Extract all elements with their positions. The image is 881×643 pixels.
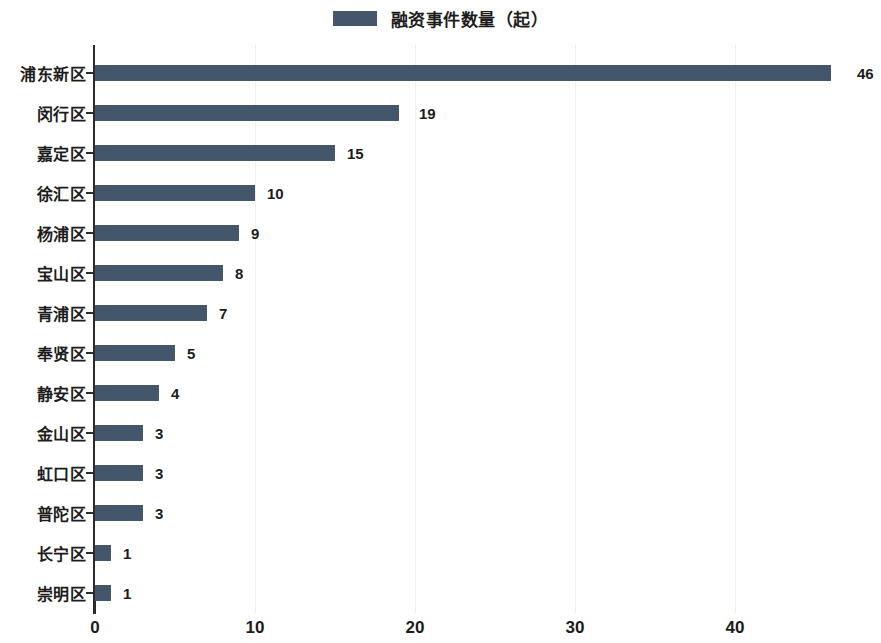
bar[interactable]: [95, 185, 255, 201]
category-label: 金山区: [37, 421, 87, 445]
bar[interactable]: [95, 265, 223, 281]
category-label: 嘉定区: [37, 141, 87, 165]
table-row: 嘉定区 15: [0, 133, 881, 173]
y-axis-tick: [86, 192, 94, 194]
bar[interactable]: [95, 505, 143, 521]
y-axis-tick: [86, 312, 94, 314]
bar-value-label: 1: [123, 585, 131, 602]
table-row: 徐汇区 10: [0, 173, 881, 213]
y-axis-tick: [86, 592, 94, 594]
bar-value-label: 1: [123, 545, 131, 562]
category-label: 虹口区: [37, 461, 87, 485]
bar[interactable]: [95, 145, 335, 161]
category-label: 宝山区: [37, 261, 87, 285]
y-axis-tick: [86, 432, 94, 434]
bar-value-label: 3: [155, 505, 163, 522]
x-axis-tick-label: 30: [566, 618, 585, 638]
table-row: 普陀区 3: [0, 493, 881, 533]
table-row: 奉贤区 5: [0, 333, 881, 373]
y-axis-tick: [86, 152, 94, 154]
category-label: 长宁区: [37, 541, 87, 565]
bar[interactable]: [95, 545, 111, 561]
table-row: 虹口区 3: [0, 453, 881, 493]
category-label: 崇明区: [37, 581, 87, 605]
y-axis-tick: [86, 392, 94, 394]
table-row: 长宁区 1: [0, 533, 881, 573]
bar[interactable]: [95, 345, 175, 361]
bar-value-label: 3: [155, 465, 163, 482]
table-row: 崇明区 1: [0, 573, 881, 613]
bar-chart: 融资事件数量（起） 浦东新区 46 闵行区 19 嘉定区 15: [0, 0, 881, 643]
y-axis-tick: [86, 512, 94, 514]
bar-value-label: 19: [419, 105, 436, 122]
x-axis-tick-label: 40: [726, 618, 745, 638]
table-row: 金山区 3: [0, 413, 881, 453]
bar[interactable]: [95, 225, 239, 241]
bar-value-label: 8: [235, 265, 243, 282]
bar-value-label: 4: [171, 385, 179, 402]
y-axis-tick: [86, 552, 94, 554]
bar[interactable]: [95, 385, 159, 401]
bar-value-label: 7: [219, 305, 227, 322]
table-row: 青浦区 7: [0, 293, 881, 333]
bar[interactable]: [95, 305, 207, 321]
x-axis-tick-label: 20: [406, 618, 425, 638]
plot-area: 浦东新区 46 闵行区 19 嘉定区 15 徐汇区 10 杨浦区: [0, 0, 881, 643]
category-label: 浦东新区: [20, 61, 86, 85]
x-axis-tick-label: 10: [246, 618, 265, 638]
bar-value-label: 46: [857, 65, 874, 82]
bar[interactable]: [95, 65, 831, 81]
category-label: 杨浦区: [37, 221, 87, 245]
category-label: 静安区: [37, 381, 87, 405]
table-row: 宝山区 8: [0, 253, 881, 293]
y-axis-tick: [86, 112, 94, 114]
bar-value-label: 3: [155, 425, 163, 442]
bar[interactable]: [95, 465, 143, 481]
bar[interactable]: [95, 585, 111, 601]
bar-value-label: 5: [187, 345, 195, 362]
category-label: 闵行区: [37, 101, 87, 125]
category-label: 普陀区: [37, 501, 87, 525]
table-row: 闵行区 19: [0, 93, 881, 133]
table-row: 浦东新区 46: [0, 53, 881, 93]
category-label: 青浦区: [37, 301, 87, 325]
bar-value-label: 10: [267, 185, 284, 202]
y-axis-tick: [86, 232, 94, 234]
bar-value-label: 15: [347, 145, 364, 162]
y-axis-tick: [86, 472, 94, 474]
y-axis-tick: [86, 352, 94, 354]
bar-value-label: 9: [251, 225, 259, 242]
table-row: 静安区 4: [0, 373, 881, 413]
x-axis-tick-label: 0: [90, 618, 99, 638]
bar[interactable]: [95, 105, 399, 121]
y-axis-tick: [86, 272, 94, 274]
table-row: 杨浦区 9: [0, 213, 881, 253]
y-axis-tick: [86, 72, 94, 74]
bar[interactable]: [95, 425, 143, 441]
category-label: 奉贤区: [37, 341, 87, 365]
category-label: 徐汇区: [37, 181, 87, 205]
